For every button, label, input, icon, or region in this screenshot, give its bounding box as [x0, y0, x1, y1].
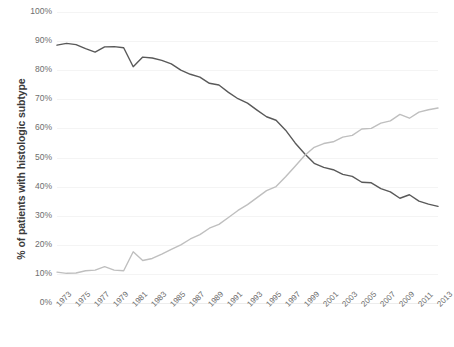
y-tick-label: 90% [6, 36, 52, 45]
y-tick-label: 0% [6, 298, 52, 307]
y-tick-label: 40% [6, 182, 52, 191]
y-tick-label: 80% [6, 65, 52, 74]
y-tick-label: 60% [6, 123, 52, 132]
y-tick-label: 30% [6, 211, 52, 220]
y-tick-label: 20% [6, 240, 52, 249]
y-axis-tick-labels: 100%90%80%70%60%50%40%30%20%10%0% [0, 0, 52, 347]
series-lines [57, 12, 438, 303]
x-axis-tick-labels: 1973197519771979198119831985198719891991… [57, 303, 438, 347]
y-tick-label: 100% [6, 7, 52, 16]
plot-area [57, 12, 438, 303]
y-tick-label: 50% [6, 153, 52, 162]
x-tick-label: 2013 [436, 290, 454, 308]
y-tick-label: 10% [6, 269, 52, 278]
line-series-squamous-cell-carcinoma [57, 43, 438, 206]
line-series-adenocarcinoma [57, 108, 438, 273]
y-tick-label: 70% [6, 94, 52, 103]
